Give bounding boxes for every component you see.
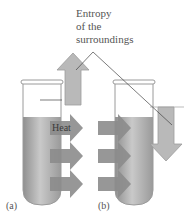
entropy-label-line-2: of the <box>76 21 101 32</box>
entropy-label-line-3: surroundings <box>76 34 133 45</box>
panel-label-b: (b) <box>98 200 110 211</box>
panel-label-a: (a) <box>6 200 17 211</box>
heat-arrows-b <box>98 114 131 198</box>
entropy-up-arrow-icon <box>57 53 89 105</box>
entropy-label-line-1: Entropy <box>76 8 111 19</box>
leader-lines <box>40 52 172 125</box>
entropy-down-arrow-icon <box>150 107 184 161</box>
heat-label: Heat <box>52 122 71 133</box>
